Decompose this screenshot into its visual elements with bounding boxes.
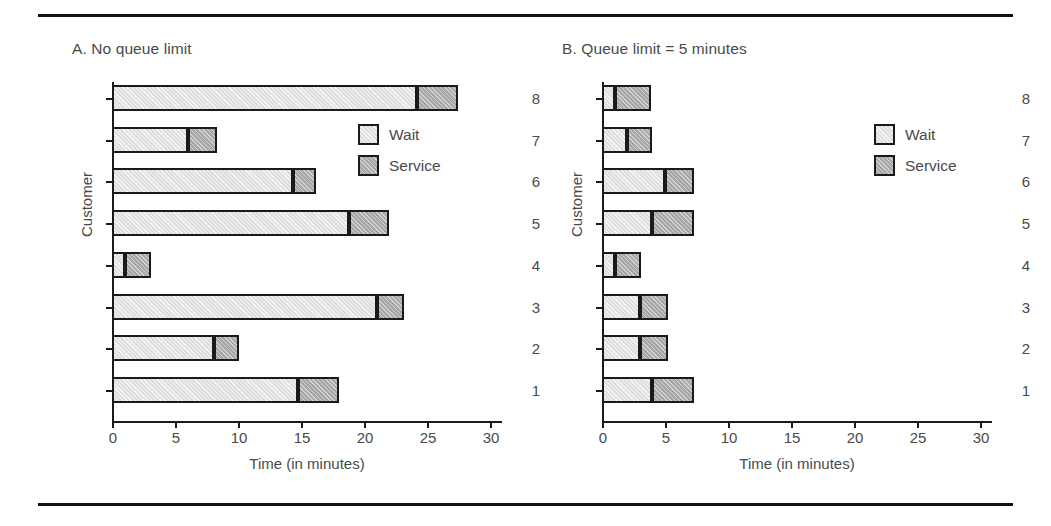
- x-tick-label: 30: [973, 429, 990, 446]
- y-tick-label: 4: [968, 256, 1030, 273]
- y-tick-label: 1: [968, 381, 1030, 398]
- x-tick-label: 15: [294, 429, 311, 446]
- y-tick-label: 8: [968, 90, 1030, 107]
- x-tick-mark: [175, 421, 177, 428]
- bar-segment-wait: [112, 335, 214, 361]
- panel-a-plot: Customer Time (in minutes) 0510152025308…: [40, 0, 540, 526]
- x-tick-label: 10: [721, 429, 738, 446]
- panel-b: B. Queue limit = 5 minutes Customer Time…: [530, 0, 1030, 526]
- panel-a: A. No queue limit Customer Time (in minu…: [40, 0, 540, 526]
- bar-segment-wait: [602, 252, 615, 278]
- x-tick-label: 10: [231, 429, 248, 446]
- panel-b-y-axis-title: Customer: [568, 145, 585, 265]
- figure-root: A. No queue limit Customer Time (in minu…: [0, 0, 1051, 526]
- legend-entry-service: Service: [358, 155, 441, 176]
- bar-segment-wait: [602, 294, 640, 320]
- panel-b-x-axis-line: [602, 421, 992, 423]
- legend-entry-service: Service: [874, 155, 957, 176]
- x-tick-label: 0: [109, 429, 117, 446]
- legend-entry-wait: Wait: [874, 124, 957, 145]
- y-tick-label: 7: [968, 131, 1030, 148]
- bar-segment-service: [298, 377, 338, 403]
- x-tick-label: 20: [847, 429, 864, 446]
- x-tick-mark: [980, 421, 982, 428]
- x-tick-mark: [301, 421, 303, 428]
- bar-segment-wait: [112, 294, 377, 320]
- y-tick-label: 6: [968, 173, 1030, 190]
- legend-label-service: Service: [389, 157, 441, 175]
- legend-label-service: Service: [905, 157, 957, 175]
- bar-segment-service: [417, 85, 459, 111]
- bar-segment-wait: [112, 377, 298, 403]
- bar-segment-wait: [602, 85, 615, 111]
- x-tick-label: 30: [483, 429, 500, 446]
- bar-segment-wait: [602, 210, 652, 236]
- bar-segment-wait: [112, 168, 293, 194]
- x-tick-label: 5: [172, 429, 180, 446]
- x-tick-mark: [854, 421, 856, 428]
- legend-swatch-service-icon: [358, 155, 379, 176]
- bar-segment-service: [615, 85, 652, 111]
- x-tick-label: 0: [599, 429, 607, 446]
- y-tick-label: 2: [968, 340, 1030, 357]
- bar-segment-wait: [602, 335, 640, 361]
- panel-a-legend: Wait Service: [358, 124, 441, 186]
- bar-segment-wait: [112, 85, 417, 111]
- bar-segment-service: [293, 168, 316, 194]
- legend-swatch-wait-icon: [358, 124, 379, 145]
- legend-label-wait: Wait: [905, 126, 935, 144]
- panel-a-y-axis-title: Customer: [78, 145, 95, 265]
- x-tick-mark: [238, 421, 240, 428]
- bar-segment-wait: [112, 252, 125, 278]
- legend-swatch-service-icon: [874, 155, 895, 176]
- x-tick-mark: [112, 421, 114, 428]
- bar-segment-wait: [112, 127, 188, 153]
- bar-segment-service: [652, 210, 694, 236]
- x-tick-mark: [665, 421, 667, 428]
- panel-b-plot: Customer Time (in minutes) 0510152025308…: [530, 0, 1030, 526]
- x-tick-mark: [917, 421, 919, 428]
- bar-segment-wait: [602, 168, 665, 194]
- legend-swatch-wait-icon: [874, 124, 895, 145]
- y-tick-label: 3: [968, 298, 1030, 315]
- x-tick-label: 5: [662, 429, 670, 446]
- y-tick-label: 5: [968, 215, 1030, 232]
- bar-segment-service: [214, 335, 239, 361]
- x-tick-mark: [427, 421, 429, 428]
- legend-entry-wait: Wait: [358, 124, 441, 145]
- x-tick-mark: [364, 421, 366, 428]
- x-tick-label: 25: [910, 429, 927, 446]
- bar-segment-service: [665, 168, 694, 194]
- bar-segment-service: [349, 210, 389, 236]
- x-tick-mark: [490, 421, 492, 428]
- bar-segment-service: [627, 127, 652, 153]
- bar-segment-wait: [602, 377, 652, 403]
- panel-b-x-axis-title: Time (in minutes): [602, 455, 992, 472]
- bar-segment-wait: [112, 210, 349, 236]
- bar-segment-service: [188, 127, 217, 153]
- bar-segment-wait: [602, 127, 627, 153]
- panel-a-x-axis-title: Time (in minutes): [112, 455, 502, 472]
- panel-a-x-axis-line: [112, 421, 502, 423]
- x-tick-label: 15: [784, 429, 801, 446]
- bar-segment-service: [125, 252, 151, 278]
- bar-segment-service: [652, 377, 694, 403]
- x-tick-label: 20: [357, 429, 374, 446]
- panel-b-legend: Wait Service: [874, 124, 957, 186]
- x-tick-mark: [791, 421, 793, 428]
- legend-label-wait: Wait: [389, 126, 419, 144]
- bar-segment-service: [640, 335, 668, 361]
- x-tick-mark: [728, 421, 730, 428]
- bar-segment-service: [377, 294, 405, 320]
- x-tick-mark: [602, 421, 604, 428]
- bar-segment-service: [640, 294, 668, 320]
- bar-segment-service: [615, 252, 641, 278]
- x-tick-label: 25: [420, 429, 437, 446]
